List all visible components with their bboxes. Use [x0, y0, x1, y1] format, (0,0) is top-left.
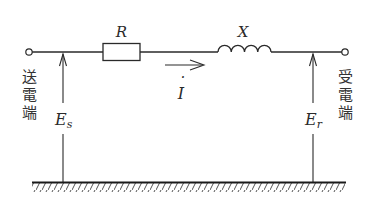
ground-plane	[32, 183, 346, 193]
current-label: I	[177, 84, 185, 103]
resistor	[103, 44, 140, 61]
svg-text:端: 端	[338, 104, 353, 122]
svg-text:電: 電	[22, 86, 37, 104]
inductor-label: X	[237, 23, 250, 41]
svg-text:送: 送	[22, 68, 37, 86]
svg-text:端: 端	[22, 104, 37, 122]
sending-end-label: 送 電 端	[22, 68, 37, 122]
receiving-end-label: 受 電 端	[338, 68, 353, 122]
svg-text:受: 受	[338, 68, 353, 86]
receiving-voltage-label: Er	[304, 110, 323, 131]
svg-text:電: 電	[338, 86, 353, 104]
resistor-label: R	[115, 23, 127, 41]
sending-terminal	[26, 49, 32, 55]
circuit-diagram: R X · I Es Er 送 電 端 受 電 端	[0, 0, 379, 209]
inductor	[218, 45, 271, 52]
sending-voltage-label: Es	[54, 110, 73, 131]
current-dot: ·	[181, 69, 185, 85]
receiving-terminal	[342, 49, 348, 55]
